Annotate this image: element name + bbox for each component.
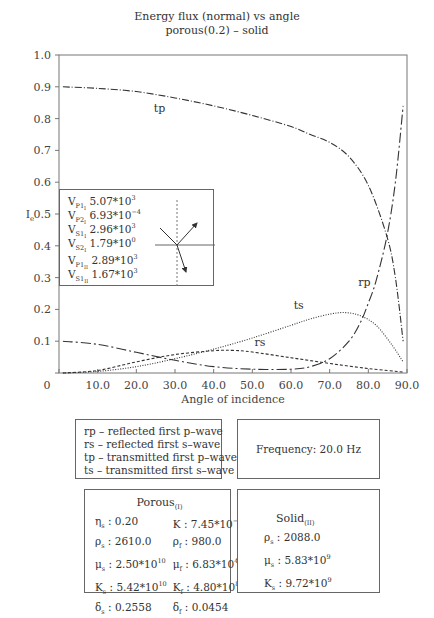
x-tick-label: 60.0 xyxy=(279,379,304,392)
x-axis-label: Angle of incidence xyxy=(180,393,284,406)
x-tick-label: 70.0 xyxy=(317,379,342,392)
porous-param: ρs : 2610.0 xyxy=(95,534,167,553)
legend-tp: tp – transmitted first p–wave xyxy=(84,451,221,464)
porous-param: ηs : 0.20 xyxy=(95,514,167,533)
porous-title: Porous(I) xyxy=(95,496,224,511)
y-tick-label: 0.9 xyxy=(34,81,52,94)
legend-rp: rp – reflected first p–wave xyxy=(84,425,221,438)
series-rs-line xyxy=(63,350,403,373)
porous-param: δf : 0.0454 xyxy=(173,600,247,618)
frequency-label: Frequency: 20.0 Hz xyxy=(256,443,361,455)
solid-params-box: Solid(II) ρs : 2088.0μs : 5.83*109Ks : 9… xyxy=(237,489,380,593)
x-tick-label: 40.0 xyxy=(201,379,226,392)
curve-label-rs: rs xyxy=(255,336,266,349)
y-tick-label: 1.0 xyxy=(34,49,52,62)
porous-param: K : 7.45*10−14 xyxy=(173,514,247,533)
solid-params-list: ρs : 2088.0μs : 5.83*109Ks : 9.72*109 xyxy=(264,530,379,595)
y-tick-label: 0.2 xyxy=(34,303,52,316)
y-tick-label: 0.8 xyxy=(34,113,52,126)
x-tick-label: 80.0 xyxy=(356,379,381,392)
solid-param: Ks : 9.72*109 xyxy=(264,573,379,596)
x-tick-label: 20.0 xyxy=(124,379,149,392)
x-tick-label: 30.0 xyxy=(163,379,188,392)
x-tick-label: 90.0 xyxy=(395,379,420,392)
legend-box: rp – reflected first p–wave rs – reflect… xyxy=(75,419,222,479)
porous-param: δs : 0.2558 xyxy=(95,600,167,618)
x-tick-label: 0 xyxy=(44,379,51,392)
porous-params-box: Porous(I) ηs : 0.20K : 7.45*10−14ρs : 26… xyxy=(84,489,231,593)
y-tick-label: 0.6 xyxy=(34,176,52,189)
legend-ts: ts – transmitted first s–wave xyxy=(84,464,221,477)
curve-label-ts: ts xyxy=(294,299,304,312)
curve-label-tp: tp xyxy=(154,102,165,115)
y-tick-label: 0.1 xyxy=(34,335,52,348)
legend-rs: rs – reflected first s–wave xyxy=(84,438,221,451)
solid-param: μs : 5.83*109 xyxy=(264,550,379,573)
porous-params-grid: ηs : 0.20K : 7.45*10−14ρs : 2610.0ρf : 9… xyxy=(95,514,224,618)
wave-ray-diagram-icon xyxy=(60,190,215,287)
y-tick-label: 0.3 xyxy=(34,272,52,285)
frequency-box: Frequency: 20.0 Hz xyxy=(237,419,380,479)
porous-param: Kf : 4.80*108 xyxy=(173,577,247,599)
porous-param: ρf : 980.0 xyxy=(173,534,247,553)
porous-param: Ks : 5.42*1010 xyxy=(95,577,167,599)
porous-param: μs : 2.50*1010 xyxy=(95,554,167,576)
solid-title: Solid(II) xyxy=(264,512,379,527)
x-tick-label: 50.0 xyxy=(240,379,265,392)
inset-velocity-box: VP1I 5.07*103VP2I 6.93*10−4VS1I 2.96*103… xyxy=(59,189,214,286)
y-tick-label: 0.7 xyxy=(34,144,52,157)
y-tick-label: 0.5 xyxy=(34,208,52,221)
x-tick-label: 10.0 xyxy=(85,379,110,392)
series-ts-line xyxy=(63,313,403,373)
porous-param: μf : 6.83*104 xyxy=(173,554,247,576)
y-tick-label: 0.4 xyxy=(34,240,52,253)
solid-param: ρs : 2088.0 xyxy=(264,530,379,550)
curve-label-rp: rp xyxy=(358,276,370,289)
